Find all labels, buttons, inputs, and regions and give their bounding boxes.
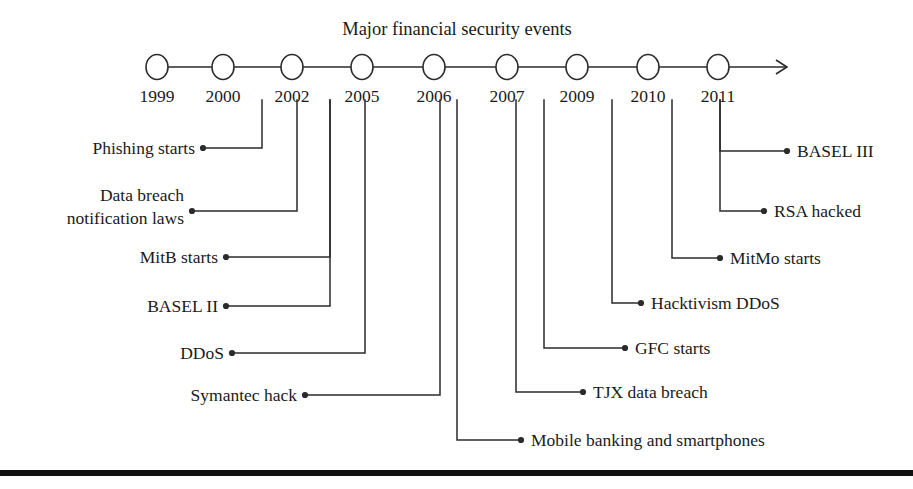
event-label-phishing-starts: Phishing starts [92,138,195,158]
timeline-node-2000[interactable] [212,55,234,80]
year-label-2006: 2006 [417,86,452,106]
timeline-node-2002[interactable] [281,55,303,80]
connector-basel-iii [720,100,787,151]
event-label-mitb-starts: MitB starts [140,247,218,267]
timeline-node-1999[interactable] [146,55,168,80]
timeline-axis [168,60,787,74]
year-label-1999: 1999 [140,86,175,106]
event-label-mitmo-starts: MitMo starts [730,248,821,268]
event-label-hacktivism-ddos: Hacktivism DDoS [651,293,780,313]
timeline-figure: Major financial security events 19992000… [0,0,913,489]
connector-rsa-hacked [720,100,764,211]
event-label-ddos: DDoS [180,343,224,363]
marker-gfc-starts[interactable] [622,345,628,351]
event-label-symantec-hack: Symantec hack [191,385,298,405]
connector-data-breach-notification-laws [192,100,297,211]
connector-basel-ii [226,100,330,306]
year-label-2002: 2002 [275,86,310,106]
timeline-diagram: Major financial security events 19992000… [0,0,913,489]
marker-basel-iii[interactable] [784,148,790,154]
event-label-tjx-data-breach: TJX data breach [593,382,708,402]
event-label-gfc-starts: GFC starts [635,338,711,358]
event-label-basel-iii: BASEL III [797,141,874,161]
connector-mitb-starts [226,100,330,257]
bottom-divider-rule [0,470,913,476]
event-label-data-breach-notification-laws: Data breach [100,185,184,205]
connector-mobile-banking-and-smartphones [457,100,521,440]
event-label-basel-ii: BASEL II [147,296,218,316]
year-label-2007: 2007 [490,86,525,106]
connector-mitmo-starts [672,100,720,258]
connector-ddos [232,100,365,353]
connector-hacktivism-ddos [612,100,641,303]
marker-basel-ii[interactable] [223,303,229,309]
event-label-data-breach-notification-laws-line2: notification laws [67,208,184,228]
marker-data-breach-notification-laws[interactable] [189,208,195,214]
connector-symantec-hack [305,100,440,395]
year-label-2005: 2005 [345,86,380,106]
event-label-rsa-hacked: RSA hacked [774,201,861,221]
timeline-node-2007[interactable] [496,55,518,80]
year-label-2011: 2011 [701,86,735,106]
marker-rsa-hacked[interactable] [761,208,767,214]
event-label-mobile-banking-and-smartphones: Mobile banking and smartphones [531,430,765,450]
event-labels: Phishing startsData breachnotification l… [67,138,874,450]
marker-mitmo-starts[interactable] [717,255,723,261]
marker-mitb-starts[interactable] [223,254,229,260]
year-label-2010: 2010 [631,86,666,106]
timeline-node-2009[interactable] [566,55,588,80]
connector-phishing-starts [203,100,262,148]
timeline-node-2011[interactable] [707,55,729,80]
marker-symantec-hack[interactable] [302,392,308,398]
marker-ddos[interactable] [229,350,235,356]
timeline-node-2006[interactable] [423,55,445,80]
timeline-year-nodes: 199920002002200520062007200920102011 [140,55,736,107]
timeline-node-2005[interactable] [351,55,373,80]
marker-hacktivism-ddos[interactable] [638,300,644,306]
marker-mobile-banking-and-smartphones[interactable] [518,437,524,443]
connector-gfc-starts [544,100,625,348]
year-label-2000: 2000 [206,86,241,106]
marker-phishing-starts[interactable] [200,145,206,151]
year-label-2009: 2009 [560,86,595,106]
timeline-node-2010[interactable] [637,55,659,80]
marker-tjx-data-breach[interactable] [580,389,586,395]
figure-title: Major financial security events [342,19,572,39]
